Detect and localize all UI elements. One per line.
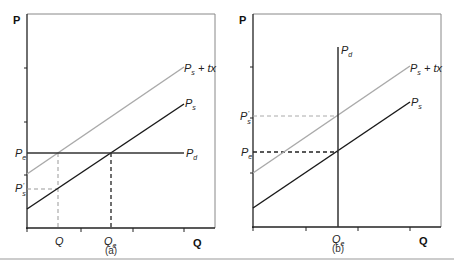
panel-b-supply-tax-label: Ps + tx — [410, 62, 442, 76]
panel-a-frame — [27, 14, 215, 228]
panel-a-pe-tick-label: Pe — [15, 147, 26, 161]
panel-a-y-axis-label: P — [13, 14, 20, 26]
panel-a: P Q Ps + tx Ps Pd Pe Ps' Q Qe (a) — [13, 14, 216, 256]
panel-a-demand-label: Pd — [186, 147, 198, 161]
panel-b-supply-curve — [253, 102, 410, 208]
panel-b-supply-tax-curve — [253, 66, 410, 173]
panel-b-ps-prime-tick-label: Ps' — [240, 110, 251, 125]
panel-a-ps-prime-tick-label: Ps' — [15, 182, 26, 197]
panel-b-caption: (b) — [332, 243, 344, 254]
panel-b-supply-label: Ps — [411, 96, 422, 110]
panel-a-caption: (a) — [105, 245, 117, 256]
panel-b-x-axis-label: Q — [419, 235, 428, 247]
panel-a-q-tick-label: Q — [55, 235, 64, 247]
panel-b-demand-label: Pd — [341, 44, 353, 58]
panel-b: P Q Ps + tx Ps Pd Ps' Pe Qe (b) — [239, 14, 442, 254]
panel-a-supply-label: Ps — [185, 97, 196, 111]
panel-a-supply-tax-label: Ps + tx — [184, 62, 216, 76]
panel-b-y-axis-label: P — [239, 14, 246, 26]
panel-a-x-axis-label: Q — [193, 237, 202, 249]
tax-incidence-diagram: P Q Ps + tx Ps Pd Pe Ps' Q Qe (a) P — [0, 0, 454, 266]
panel-b-pe-tick-label: Pe — [241, 146, 252, 160]
